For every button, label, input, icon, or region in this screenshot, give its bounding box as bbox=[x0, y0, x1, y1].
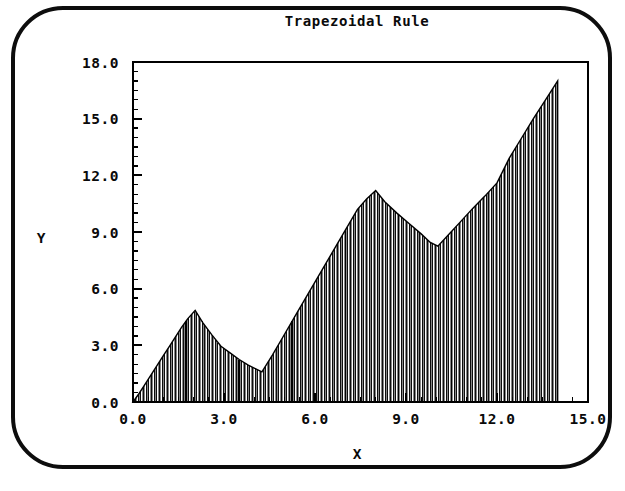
y-tick-label: 18.0 bbox=[82, 55, 119, 71]
y-axis-title: Y bbox=[37, 230, 46, 246]
trapezoidal-rule-chart: Trapezoidal Rule X Y 0.03.06.09.012.015.… bbox=[0, 0, 625, 491]
y-tick-label: 9.0 bbox=[91, 225, 119, 241]
x-tick-label: 3.0 bbox=[210, 411, 238, 427]
plot-frame bbox=[133, 62, 588, 402]
y-tick-label: 15.0 bbox=[82, 111, 119, 127]
chart-title: Trapezoidal Rule bbox=[285, 13, 429, 29]
axis-ticks bbox=[133, 62, 588, 402]
y-tick-label: 12.0 bbox=[82, 168, 119, 184]
y-axis-tick-labels: 0.03.06.09.012.015.018.0 bbox=[82, 55, 119, 411]
x-tick-label: 12.0 bbox=[479, 411, 516, 427]
x-tick-label: 15.0 bbox=[570, 411, 607, 427]
x-axis-title: X bbox=[353, 446, 362, 462]
x-tick-label: 0.0 bbox=[119, 411, 147, 427]
x-tick-label: 6.0 bbox=[301, 411, 329, 427]
y-tick-label: 0.0 bbox=[91, 395, 119, 411]
x-tick-label: 9.0 bbox=[392, 411, 420, 427]
plot-screen: Trapezoidal Rule X Y 0.03.06.09.012.015.… bbox=[0, 0, 625, 491]
x-axis-tick-labels: 0.03.06.09.012.015.0 bbox=[119, 411, 606, 427]
y-tick-label: 6.0 bbox=[91, 281, 119, 297]
y-tick-label: 3.0 bbox=[91, 338, 119, 354]
trapezoid-fill-area bbox=[134, 81, 557, 402]
